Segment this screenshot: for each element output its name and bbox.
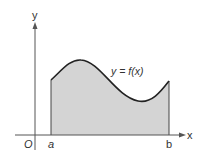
x-axis-label: x <box>187 129 193 141</box>
shaded-area <box>51 60 169 135</box>
y-axis-label: y <box>32 9 38 21</box>
upper-bound-label: b <box>166 138 172 150</box>
diagram-svg: y x O a b y = f(x) <box>0 0 207 156</box>
origin-label: O <box>24 138 33 150</box>
area-under-curve-diagram: y x O a b y = f(x) <box>0 0 207 156</box>
curve-label: y = f(x) <box>110 65 143 77</box>
y-axis-arrow-icon <box>33 22 38 29</box>
lower-bound-label: a <box>48 138 54 150</box>
x-axis-arrow-icon <box>179 133 186 138</box>
